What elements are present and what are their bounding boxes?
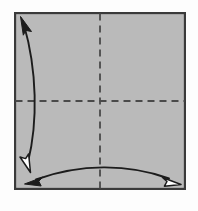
origami-diagram: Origami square with horizontal and verti… bbox=[0, 0, 198, 211]
origami-diagram-canvas: Origami square with horizontal and verti… bbox=[0, 0, 198, 211]
